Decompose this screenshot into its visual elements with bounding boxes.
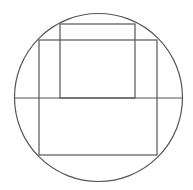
inner-rectangle (60, 24, 135, 98)
geometry-diagram (0, 0, 193, 190)
